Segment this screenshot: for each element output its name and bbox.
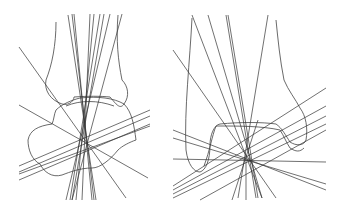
diagram-canvas	[0, 0, 346, 210]
left-dome-arc	[66, 102, 114, 107]
left-panel	[19, 14, 150, 200]
left-radiating-lines	[19, 14, 150, 200]
right-radiating-lines	[173, 15, 326, 200]
figure	[0, 0, 346, 210]
right-panel	[173, 15, 326, 200]
